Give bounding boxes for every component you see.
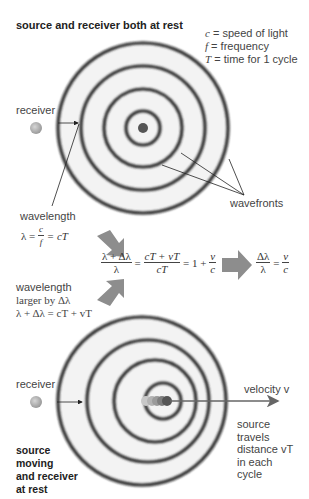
- arrow-up-right-icon: [97, 279, 124, 306]
- legend-item-c: c = speed of light: [205, 27, 298, 40]
- velocity-label: velocity v: [244, 383, 289, 396]
- bottom-panel-title: source moving and receiver at rest: [16, 444, 78, 496]
- receiver-icon: [30, 396, 42, 408]
- receiver-label: receiver: [16, 104, 55, 117]
- receiver-label: receiver: [16, 378, 55, 391]
- larger-wavelength-label: wavelength larger by Δλ λ + Δλ = cT + vT: [16, 281, 92, 320]
- legend-item-f: f = frequency: [205, 40, 298, 53]
- larger-wavelength-formula: λ + Δλ = cT + vT: [16, 307, 92, 320]
- wavelength-formula: λ = cf = cT: [21, 223, 68, 248]
- wavefronts-label: wavefronts: [230, 197, 283, 210]
- doppler-equation: λ + Δλλ = cT + vTcT = 1 + vc: [101, 250, 216, 275]
- receiver-icon: [30, 122, 42, 134]
- source-dot-icon: [138, 123, 148, 133]
- top-wavefronts: [55, 40, 231, 216]
- arrow-right-icon: [222, 250, 252, 280]
- wavelength-label: wavelength: [20, 210, 76, 223]
- top-panel-title: source and receiver both at rest: [16, 19, 183, 31]
- legend: c = speed of light f = frequency T = tim…: [205, 27, 298, 66]
- doppler-result: Δλλ = vc: [256, 250, 289, 275]
- legend-item-T: T = time for 1 cycle: [205, 53, 298, 66]
- source-travel-note: source travels distance vT in each cycle: [237, 418, 293, 481]
